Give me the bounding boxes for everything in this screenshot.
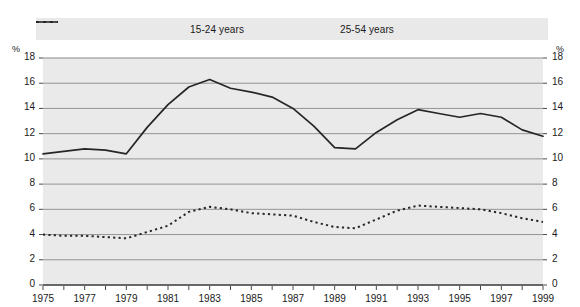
y-axis-label-right-18: 18 [552, 51, 574, 62]
y-axis-label-right-10: 10 [552, 152, 574, 163]
x-axis-label-1975: 1975 [32, 293, 54, 304]
plot-area [0, 0, 580, 307]
x-axis-label-1979: 1979 [115, 293, 137, 304]
y-axis-label-right-2: 2 [552, 253, 574, 264]
x-axis-label-1983: 1983 [199, 293, 221, 304]
x-axis-label-1981: 1981 [157, 293, 179, 304]
y-axis-label-left-2: 2 [13, 253, 35, 264]
y-axis-label-right-4: 4 [552, 228, 574, 239]
y-axis-label-left-10: 10 [13, 152, 35, 163]
x-axis-label-1999: 1999 [532, 293, 554, 304]
x-axis-label-1977: 1977 [74, 293, 96, 304]
y-axis-label-left-6: 6 [13, 202, 35, 213]
y-axis-label-right-14: 14 [552, 101, 574, 112]
y-axis-label-left-16: 16 [13, 76, 35, 87]
y-axis-label-left-0: 0 [13, 278, 35, 289]
x-axis-label-1989: 1989 [324, 293, 346, 304]
y-axis-label-right-12: 12 [552, 127, 574, 138]
y-axis-label-left-4: 4 [13, 228, 35, 239]
x-axis-label-1997: 1997 [490, 293, 512, 304]
y-axis-label-left-8: 8 [13, 177, 35, 188]
x-axis-label-1985: 1985 [240, 293, 262, 304]
x-axis-label-1991: 1991 [365, 293, 387, 304]
x-axis-label-1995: 1995 [449, 293, 471, 304]
y-axis-label-left-12: 12 [13, 127, 35, 138]
x-axis-label-1987: 1987 [282, 293, 304, 304]
unemployment-rate-chart: 15-24 years 25-54 years % % 002244668810… [0, 0, 580, 307]
y-axis-label-left-14: 14 [13, 101, 35, 112]
y-axis-label-right-16: 16 [552, 76, 574, 87]
y-axis-label-right-6: 6 [552, 202, 574, 213]
y-axis-label-right-0: 0 [552, 278, 574, 289]
x-axis-label-1993: 1993 [407, 293, 429, 304]
y-axis-label-right-8: 8 [552, 177, 574, 188]
plot-background [43, 58, 543, 285]
y-axis-label-left-18: 18 [13, 51, 35, 62]
